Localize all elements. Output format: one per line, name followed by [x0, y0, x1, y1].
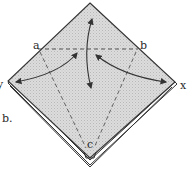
label-c: c: [87, 138, 93, 151]
step-label: b.: [2, 112, 13, 125]
label-b: b: [140, 39, 147, 52]
label-a: a: [33, 39, 40, 52]
origami-diagram: a b c x y b.: [0, 0, 189, 169]
paper-front-face: [8, 3, 175, 158]
label-y: y: [0, 78, 4, 91]
label-x: x: [180, 79, 187, 92]
